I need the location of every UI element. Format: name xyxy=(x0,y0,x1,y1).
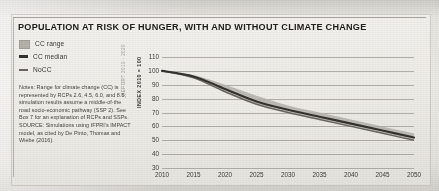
y-axis-tick-label: 50 xyxy=(152,137,159,143)
y-axis-tick-label: 110 xyxy=(149,54,159,60)
figure-notes-text: Notes: Range for climate change (CC) is … xyxy=(19,84,131,145)
y-axis-tick-label: 100 xyxy=(148,68,159,74)
legend-line-icon xyxy=(19,55,28,58)
chart-area: INDEX 2010 = 100 11010090807060504030 20… xyxy=(140,50,425,178)
page-title: POPULATION AT RISK OF HUNGER, WITH AND W… xyxy=(18,22,418,33)
legend-line-icon xyxy=(19,69,28,71)
y-axis-tick-label: 90 xyxy=(152,82,159,88)
x-axis-tick-label: 2015 xyxy=(186,171,200,178)
plot-region: 11010090807060504030 2010201520202025203… xyxy=(162,57,414,168)
legend-item-label: NoCC xyxy=(33,65,52,74)
gridline xyxy=(162,168,414,169)
x-axis-tick-label: 2040 xyxy=(344,171,358,178)
x-axis-tick-label: 2050 xyxy=(407,171,421,178)
figure-panel: POPULATION AT RISK OF HUNGER, WITH AND W… xyxy=(0,0,439,191)
x-axis-tick-label: 2030 xyxy=(281,171,295,178)
x-axis-tick-label: 2020 xyxy=(218,171,232,178)
legend-swatch-icon xyxy=(19,40,30,49)
x-axis-tick-label: 2045 xyxy=(375,171,389,178)
legend-item-label: CC median xyxy=(33,52,67,61)
y-axis-tick-label: 80 xyxy=(152,96,159,102)
figure-notes: Notes: Range for climate change (CC) is … xyxy=(19,84,131,145)
x-axis-tick-label: 2010 xyxy=(155,171,169,178)
x-axis-tick-label: 2035 xyxy=(312,171,326,178)
figure-left-rule xyxy=(13,17,14,177)
x-axis-tick-label: 2025 xyxy=(249,171,263,178)
figure-top-rule xyxy=(13,17,426,18)
figure-side-caption: REPORT 2019 - 2020 xyxy=(121,44,126,96)
y-axis-tick-label: 60 xyxy=(152,123,159,129)
y-axis-title: INDEX 2010 = 100 xyxy=(136,56,142,108)
chart-plot-svg xyxy=(162,57,414,168)
y-axis-tick-label: 70 xyxy=(152,110,159,116)
y-axis-tick-label: 40 xyxy=(152,151,159,157)
legend-item-label: CC range xyxy=(35,39,64,48)
